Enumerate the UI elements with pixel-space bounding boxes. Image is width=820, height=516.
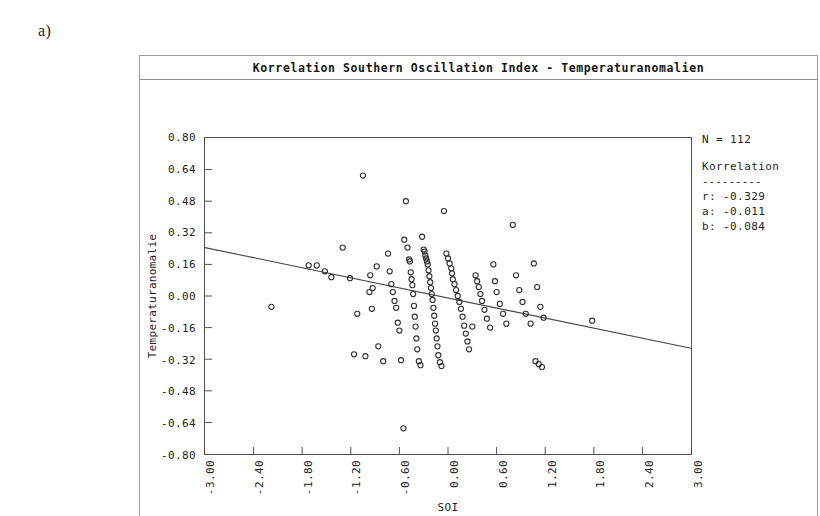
- data-point: [479, 298, 484, 303]
- data-point: [427, 274, 432, 279]
- data-point: [455, 293, 460, 298]
- data-point: [401, 426, 406, 431]
- stat-b: b: -0.084: [702, 219, 812, 234]
- data-point: [441, 208, 446, 213]
- x-tick-label: 3.00: [692, 460, 705, 488]
- data-point: [374, 264, 379, 269]
- data-point: [269, 304, 274, 309]
- data-point: [413, 324, 418, 329]
- data-point: [431, 305, 436, 310]
- data-point: [452, 282, 457, 287]
- scatter-points: [269, 173, 595, 431]
- data-point: [403, 199, 408, 204]
- panel-label: a): [38, 22, 51, 40]
- data-point: [392, 298, 397, 303]
- data-point: [460, 314, 465, 319]
- x-tick-label: 1.20: [546, 460, 559, 488]
- data-point: [397, 328, 402, 333]
- data-point: [492, 279, 497, 284]
- data-point: [428, 280, 433, 285]
- data-point: [322, 269, 327, 274]
- data-point: [381, 359, 386, 364]
- data-point: [538, 304, 543, 309]
- data-point: [395, 320, 400, 325]
- y-axis-title: Temperaturanomalie: [143, 137, 161, 455]
- y-tick-label: -0.16: [161, 321, 196, 334]
- y-tick-label: 0.32: [168, 226, 196, 239]
- data-point: [462, 323, 467, 328]
- data-point: [531, 261, 536, 266]
- data-point: [370, 286, 375, 291]
- data-point: [412, 314, 417, 319]
- x-tick-label: -1.20: [350, 460, 363, 495]
- y-tick-label: -0.48: [161, 385, 196, 398]
- stat-r: r: -0.329: [702, 189, 812, 204]
- chart-title: Korrelation Southern Oscillation Index -…: [253, 61, 704, 75]
- data-point: [428, 286, 433, 291]
- data-point: [433, 328, 438, 333]
- data-point: [410, 283, 415, 288]
- stat-heading: Korrelation: [702, 159, 812, 174]
- data-point: [466, 347, 471, 352]
- data-point: [430, 297, 435, 302]
- data-point: [434, 336, 439, 341]
- data-point: [533, 359, 538, 364]
- data-point: [476, 285, 481, 290]
- x-axis-title: SOI: [204, 501, 692, 514]
- data-point: [432, 321, 437, 326]
- data-point: [590, 318, 595, 323]
- data-point: [408, 270, 413, 275]
- data-point: [435, 344, 440, 349]
- y-tick-label: 0.48: [168, 194, 196, 207]
- plot-area: [204, 137, 692, 455]
- data-point: [419, 234, 424, 239]
- data-point: [351, 352, 356, 357]
- data-point: [360, 173, 365, 178]
- x-tick-label: -0.60: [399, 460, 412, 495]
- x-tick-label: -1.80: [302, 460, 315, 495]
- y-tick-label: -0.32: [161, 353, 196, 366]
- data-point: [454, 287, 459, 292]
- data-point: [363, 354, 368, 359]
- x-tick-label: -3.00: [204, 460, 217, 495]
- data-point: [449, 266, 454, 271]
- y-tick-label: 0.00: [168, 290, 196, 303]
- data-point: [447, 261, 452, 266]
- data-point: [491, 262, 496, 267]
- data-point: [536, 362, 541, 367]
- data-point: [411, 291, 416, 296]
- data-point: [411, 303, 416, 308]
- data-point: [520, 299, 525, 304]
- data-point: [465, 339, 470, 344]
- data-point: [482, 307, 487, 312]
- data-point: [513, 273, 518, 278]
- data-point: [504, 321, 509, 326]
- data-point: [494, 289, 499, 294]
- axis-ticks: [205, 170, 642, 454]
- data-point: [463, 331, 468, 336]
- x-tick-label: 0.00: [448, 460, 461, 488]
- scatter-plot-svg: [205, 138, 691, 454]
- data-point: [387, 269, 392, 274]
- data-point: [369, 306, 374, 311]
- data-point: [458, 306, 463, 311]
- stat-spacer: [702, 147, 812, 159]
- y-tick-label: -0.64: [161, 417, 196, 430]
- y-tick-label: 0.64: [168, 162, 196, 175]
- regression-line: [205, 248, 691, 349]
- data-point: [517, 287, 522, 292]
- data-point: [450, 277, 455, 282]
- data-point: [488, 325, 493, 330]
- statistics-box: N = 112 Korrelation --------- r: -0.329 …: [702, 132, 812, 234]
- data-point: [449, 271, 454, 276]
- data-point: [405, 245, 410, 250]
- data-point: [484, 316, 489, 321]
- data-point: [497, 301, 502, 306]
- data-point: [475, 279, 480, 284]
- data-point: [306, 263, 311, 268]
- data-point: [426, 268, 431, 273]
- data-point: [478, 291, 483, 296]
- data-point: [398, 358, 403, 363]
- data-point: [409, 277, 414, 282]
- stat-rule: ---------: [702, 174, 812, 189]
